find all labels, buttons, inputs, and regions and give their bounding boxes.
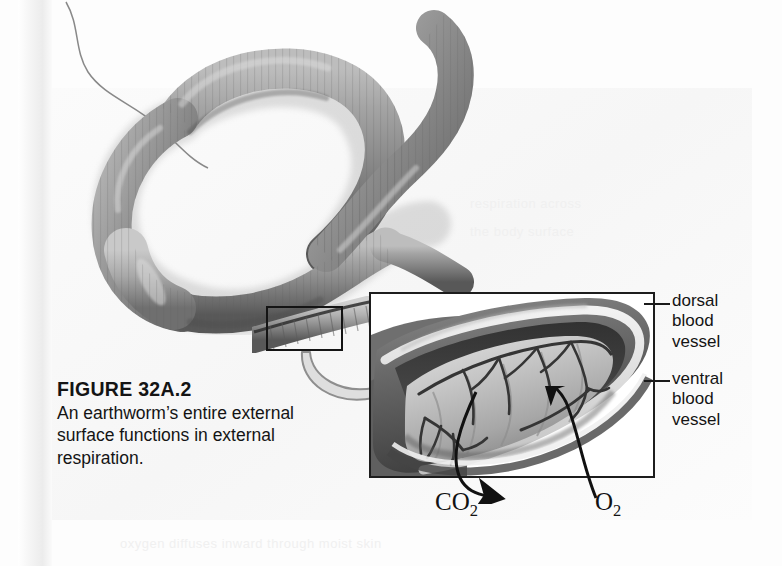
co2-outflow-arrow-icon: [456, 392, 488, 496]
co2-subscript: 2: [470, 501, 478, 520]
ventral-leader-line: [644, 380, 670, 382]
gas-exchange-arrows: [420, 386, 650, 504]
o2-text: O: [595, 488, 613, 515]
figure-caption: FIGURE 32A.2 An earthworm’s entire exter…: [57, 378, 297, 469]
o2-subscript: 2: [613, 501, 621, 520]
ventral-blood-vessel-label: ventral blood vessel: [672, 369, 723, 430]
o2-inflow-arrow-icon: [554, 386, 596, 498]
bleed-through-text: oxygen diffuses inward through moist ski…: [120, 536, 382, 551]
figure-page: respiration across the body surface oxyg…: [0, 0, 782, 566]
figure-caption-text: An earthworm’s entire external surface f…: [57, 402, 297, 468]
co2-text: CO: [435, 488, 470, 515]
co2-label: CO2: [435, 488, 478, 521]
dorsal-blood-vessel-label: dorsal blood vessel: [672, 291, 720, 352]
figure-number: FIGURE 32A.2: [57, 378, 297, 400]
o2-label: O2: [595, 488, 621, 521]
dorsal-leader-line: [644, 303, 670, 305]
